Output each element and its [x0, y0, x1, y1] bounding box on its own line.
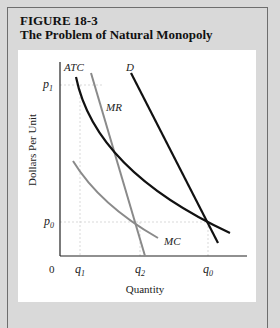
mr-label: MR	[105, 101, 122, 113]
demand-curve	[131, 73, 218, 243]
mc-curve	[73, 161, 158, 238]
p0-label: p0	[43, 214, 54, 230]
q2-label: q2	[135, 262, 145, 278]
d-label: D	[125, 61, 134, 73]
atc-label: ATC	[63, 61, 84, 73]
q0-label: q0	[203, 262, 213, 278]
x-axis-title: Quantity	[126, 283, 165, 295]
q1-label: q1	[75, 262, 85, 278]
guide-lines	[60, 85, 208, 256]
origin-label: 0	[49, 263, 55, 275]
p1-label: p1	[42, 77, 53, 93]
y-axis-title: Dollars Per Unit	[26, 114, 38, 186]
mc-label: MC	[163, 235, 181, 247]
